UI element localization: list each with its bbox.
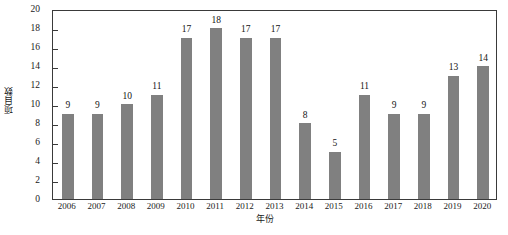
bar-value-label: 10 xyxy=(122,92,132,102)
x-axis-tick-label: 2012 xyxy=(236,202,254,211)
bar-group: 10 xyxy=(121,11,133,199)
bar xyxy=(210,28,222,199)
bar-group: 18 xyxy=(210,11,222,199)
bar-value-label: 5 xyxy=(332,139,337,149)
bar-group: 14 xyxy=(477,11,489,199)
x-axis-tick-label: 2007 xyxy=(88,202,106,211)
bar-value-label: 17 xyxy=(182,25,192,35)
y-axis-tick-label: 14 xyxy=(31,62,41,72)
bar xyxy=(151,95,163,200)
y-axis-tick-label: 10 xyxy=(31,100,41,110)
bar xyxy=(121,104,133,199)
y-axis-tick-label: 0 xyxy=(35,195,40,205)
bar-value-label: 11 xyxy=(360,82,369,92)
bar-group: 17 xyxy=(181,11,193,199)
bar-group: 9 xyxy=(62,11,74,199)
plot-area: 991011171817178511991314 xyxy=(52,10,497,200)
bar xyxy=(329,152,341,200)
y-axis-tick-label: 16 xyxy=(31,43,41,53)
x-axis-title: 年份 xyxy=(0,215,508,224)
bar xyxy=(270,38,282,200)
bar-value-label: 8 xyxy=(303,111,308,121)
y-axis-tick-label: 4 xyxy=(35,157,40,167)
bar-group: 17 xyxy=(270,11,282,199)
x-axis-title-text: 年份 xyxy=(256,214,274,224)
x-axis-tick-label: 2011 xyxy=(206,202,224,211)
bar-value-label: 9 xyxy=(392,101,397,111)
y-axis-title-text: 项目数 xyxy=(4,87,13,114)
x-axis-tick-label: 2009 xyxy=(147,202,165,211)
bar xyxy=(448,76,460,200)
bar xyxy=(418,114,430,200)
y-axis-tick-label: 20 xyxy=(31,5,41,15)
bar-value-label: 13 xyxy=(449,63,459,73)
bars-container: 991011171817178511991314 xyxy=(53,11,496,199)
y-axis-title: 项目数 xyxy=(0,0,16,200)
x-axis-tick-label: 2006 xyxy=(58,202,76,211)
y-axis-tick-label: 8 xyxy=(35,119,40,129)
bar xyxy=(477,66,489,199)
bar xyxy=(92,114,104,200)
bar xyxy=(299,123,311,199)
bar-value-label: 9 xyxy=(65,101,70,111)
bar-value-label: 9 xyxy=(421,101,426,111)
bar-group: 9 xyxy=(388,11,400,199)
bar-group: 5 xyxy=(329,11,341,199)
bar-value-label: 18 xyxy=(211,16,221,26)
x-axis-tick-label: 2008 xyxy=(117,202,135,211)
bar-group: 8 xyxy=(299,11,311,199)
bar xyxy=(359,95,371,200)
bar-chart: 项目数 02468101214161820 991011171817178511… xyxy=(0,0,508,235)
bar-value-label: 17 xyxy=(241,25,251,35)
x-axis-tick-label: 2014 xyxy=(295,202,313,211)
bar-value-label: 11 xyxy=(152,82,161,92)
x-axis-tick-label: 2016 xyxy=(355,202,373,211)
bar-group: 17 xyxy=(240,11,252,199)
bar-value-label: 17 xyxy=(271,25,281,35)
bar-group: 11 xyxy=(151,11,163,199)
bar xyxy=(181,38,193,200)
x-axis-tick-label: 2013 xyxy=(266,202,284,211)
x-axis-tick-label: 2019 xyxy=(444,202,462,211)
bar-group: 9 xyxy=(418,11,430,199)
bar-value-label: 9 xyxy=(95,101,100,111)
bar xyxy=(62,114,74,200)
x-axis-tick-label: 2010 xyxy=(177,202,195,211)
y-axis-tick-label: 6 xyxy=(35,138,40,148)
y-axis-tick-label: 2 xyxy=(35,176,40,186)
y-axis-tick-labels: 02468101214161820 xyxy=(16,0,44,200)
bar-group: 11 xyxy=(359,11,371,199)
y-axis-tick-label: 12 xyxy=(31,81,41,91)
bar-group: 9 xyxy=(92,11,104,199)
bar xyxy=(240,38,252,200)
bar xyxy=(388,114,400,200)
bar-group: 13 xyxy=(448,11,460,199)
x-axis-tick-label: 2018 xyxy=(414,202,432,211)
x-axis-tick-label: 2017 xyxy=(384,202,402,211)
x-axis-tick-label: 2015 xyxy=(325,202,343,211)
bar-value-label: 14 xyxy=(478,54,488,64)
x-axis-tick-label: 2020 xyxy=(473,202,491,211)
y-axis-tick-label: 18 xyxy=(31,24,41,34)
